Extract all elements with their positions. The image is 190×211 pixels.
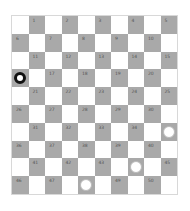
light-square — [111, 158, 128, 176]
square-8[interactable]: 8 — [78, 34, 95, 52]
square-25[interactable]: 25 — [161, 87, 178, 105]
square-7[interactable]: 7 — [45, 34, 62, 52]
light-square — [12, 123, 29, 141]
square-number: 6 — [16, 37, 19, 42]
square-16[interactable] — [12, 69, 29, 87]
square-35[interactable] — [161, 123, 178, 141]
square-number: 17 — [49, 72, 55, 77]
light-square — [78, 87, 95, 105]
square-number: 8 — [82, 37, 85, 42]
square-17[interactable]: 17 — [45, 69, 62, 87]
square-34[interactable]: 34 — [128, 123, 145, 141]
square-3[interactable]: 3 — [95, 16, 112, 34]
light-square — [95, 69, 112, 87]
square-33[interactable]: 33 — [95, 123, 112, 141]
square-27[interactable]: 27 — [45, 105, 62, 123]
light-square — [144, 123, 161, 141]
square-number: 37 — [49, 144, 55, 149]
square-1[interactable]: 1 — [29, 16, 46, 34]
white-piece[interactable] — [163, 126, 175, 138]
square-number: 12 — [66, 55, 72, 60]
square-18[interactable]: 18 — [78, 69, 95, 87]
square-47[interactable]: 47 — [45, 176, 62, 194]
square-43[interactable]: 43 — [95, 158, 112, 176]
square-48[interactable] — [78, 176, 95, 194]
light-square — [161, 141, 178, 159]
light-square — [45, 16, 62, 34]
square-number: 30 — [148, 108, 154, 113]
square-23[interactable]: 23 — [95, 87, 112, 105]
square-number: 27 — [49, 108, 55, 113]
light-square — [144, 52, 161, 70]
square-number: 18 — [82, 72, 88, 77]
square-number: 20 — [148, 72, 154, 77]
square-26[interactable]: 26 — [12, 105, 29, 123]
light-square — [45, 123, 62, 141]
square-39[interactable]: 39 — [111, 141, 128, 159]
light-square — [29, 69, 46, 87]
square-22[interactable]: 22 — [62, 87, 79, 105]
square-40[interactable]: 40 — [144, 141, 161, 159]
square-number: 42 — [66, 161, 72, 166]
square-19[interactable]: 19 — [111, 69, 128, 87]
square-number: 39 — [115, 144, 121, 149]
square-29[interactable]: 29 — [111, 105, 128, 123]
square-number: 23 — [99, 90, 105, 95]
square-4[interactable]: 4 — [128, 16, 145, 34]
light-square — [62, 69, 79, 87]
square-46[interactable]: 46 — [12, 176, 29, 194]
square-number: 43 — [99, 161, 105, 166]
square-42[interactable]: 42 — [62, 158, 79, 176]
square-2[interactable]: 2 — [62, 16, 79, 34]
light-square — [62, 176, 79, 194]
light-square — [12, 158, 29, 176]
square-11[interactable]: 11 — [29, 52, 46, 70]
square-21[interactable]: 21 — [29, 87, 46, 105]
square-number: 46 — [16, 179, 22, 184]
square-6[interactable]: 6 — [12, 34, 29, 52]
square-5[interactable]: 5 — [161, 16, 178, 34]
checkers-board: 1234567891011121314151718192021222324252… — [11, 15, 178, 195]
square-12[interactable]: 12 — [62, 52, 79, 70]
light-square — [78, 16, 95, 34]
light-square — [62, 105, 79, 123]
light-square — [95, 176, 112, 194]
black-piece[interactable] — [14, 72, 26, 84]
white-piece[interactable] — [80, 179, 92, 191]
square-49[interactable]: 49 — [111, 176, 128, 194]
square-number: 22 — [66, 90, 72, 95]
square-36[interactable]: 36 — [12, 141, 29, 159]
square-31[interactable]: 31 — [29, 123, 46, 141]
square-number: 10 — [148, 37, 154, 42]
square-20[interactable]: 20 — [144, 69, 161, 87]
light-square — [95, 141, 112, 159]
square-30[interactable]: 30 — [144, 105, 161, 123]
square-15[interactable]: 15 — [161, 52, 178, 70]
square-32[interactable]: 32 — [62, 123, 79, 141]
light-square — [78, 123, 95, 141]
light-square — [161, 34, 178, 52]
square-37[interactable]: 37 — [45, 141, 62, 159]
square-28[interactable]: 28 — [78, 105, 95, 123]
square-number: 41 — [33, 161, 39, 166]
square-41[interactable]: 41 — [29, 158, 46, 176]
square-number: 4 — [132, 19, 135, 24]
square-number: 45 — [165, 161, 171, 166]
square-13[interactable]: 13 — [95, 52, 112, 70]
square-number: 19 — [115, 72, 121, 77]
square-24[interactable]: 24 — [128, 87, 145, 105]
light-square — [29, 176, 46, 194]
square-50[interactable]: 50 — [144, 176, 161, 194]
square-number: 29 — [115, 108, 121, 113]
square-44[interactable] — [128, 158, 145, 176]
square-number: 15 — [165, 55, 171, 60]
square-38[interactable]: 38 — [78, 141, 95, 159]
square-9[interactable]: 9 — [111, 34, 128, 52]
square-10[interactable]: 10 — [144, 34, 161, 52]
square-45[interactable]: 45 — [161, 158, 178, 176]
square-14[interactable]: 14 — [128, 52, 145, 70]
white-piece[interactable] — [130, 161, 142, 173]
light-square — [45, 52, 62, 70]
square-number: 40 — [148, 144, 154, 149]
light-square — [95, 34, 112, 52]
